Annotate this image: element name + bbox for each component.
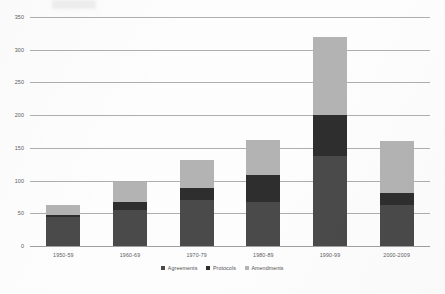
x-axis-label-2000-2009: 2000-2009 (383, 252, 410, 258)
bar-segment-protocols[interactable] (313, 115, 347, 156)
y-axis-label-50: 50 (0, 210, 24, 216)
x-axis-label-1950-59: 1950-59 (53, 252, 74, 258)
bar-segment-protocols[interactable] (180, 188, 214, 200)
y-axis-label-150: 150 (0, 145, 24, 151)
legend-label: Protocols (213, 265, 236, 271)
x-axis-label-1980-89: 1980-89 (253, 252, 274, 258)
y-axis-label-300: 300 (0, 47, 24, 53)
bar-segment-agreements[interactable] (46, 217, 80, 246)
scan-artifact (52, 0, 96, 9)
gridline-0 (30, 246, 430, 247)
chart-legend: AgreementsProtocolsAmendments (0, 265, 445, 271)
legend-swatch-icon (245, 266, 249, 270)
legend-label: Amendments (251, 265, 283, 271)
y-axis-label-100: 100 (0, 178, 24, 184)
legend-label: Agreements (168, 265, 198, 271)
bar-group[interactable] (180, 160, 214, 246)
x-axis-label-1960-69: 1960-69 (120, 252, 141, 258)
bar-segment-agreements[interactable] (380, 205, 414, 246)
bar-group[interactable] (246, 140, 280, 246)
bar-segment-amendments[interactable] (180, 160, 214, 188)
legend-swatch-icon (161, 266, 165, 270)
legend-item-amendments[interactable]: Amendments (245, 265, 284, 271)
bar-segment-amendments[interactable] (246, 140, 280, 175)
bar-group[interactable] (113, 182, 147, 246)
bars-layer (30, 17, 430, 246)
bar-group[interactable] (313, 37, 347, 246)
bar-segment-protocols[interactable] (246, 175, 280, 201)
legend-item-agreements[interactable]: Agreements (161, 265, 197, 271)
bar-group[interactable] (46, 205, 80, 246)
bar-segment-agreements[interactable] (313, 156, 347, 246)
plot-area (30, 17, 430, 246)
y-axis-label-350: 350 (0, 14, 24, 20)
y-axis-label-0: 0 (0, 243, 24, 249)
bar-segment-agreements[interactable] (246, 202, 280, 246)
bar-segment-protocols[interactable] (113, 202, 147, 210)
y-axis-label-200: 200 (0, 112, 24, 118)
legend-swatch-icon (206, 266, 210, 270)
stacked-bar-chart: 050100150200250300350 1950-591960-691970… (0, 0, 445, 294)
bar-segment-agreements[interactable] (180, 200, 214, 246)
bar-group[interactable] (380, 141, 414, 246)
bar-segment-agreements[interactable] (113, 210, 147, 246)
legend-item-protocols[interactable]: Protocols (206, 265, 235, 271)
bar-segment-protocols[interactable] (380, 193, 414, 205)
x-axis-label-1990-99: 1990-99 (320, 252, 341, 258)
x-axis-label-1970-79: 1970-79 (186, 252, 207, 258)
bar-segment-amendments[interactable] (113, 182, 147, 202)
bar-segment-amendments[interactable] (380, 141, 414, 193)
bar-segment-amendments[interactable] (313, 37, 347, 115)
bar-segment-amendments[interactable] (46, 205, 80, 215)
y-axis-label-250: 250 (0, 79, 24, 85)
